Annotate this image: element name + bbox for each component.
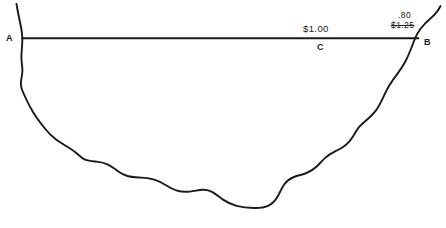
label-price-old-strikethrough: $1.25	[391, 21, 414, 30]
left-wall-curve	[17, 4, 441, 208]
label-point-a: A	[6, 34, 13, 43]
label-price-new: .80	[398, 11, 411, 20]
diagram-canvas: A B C $1.00 .80 $1.25	[0, 0, 446, 228]
label-point-b: B	[424, 38, 431, 47]
label-price-main: $1.00	[303, 24, 329, 34]
valley-cross-section-drawing	[0, 0, 446, 228]
label-point-c: C	[317, 43, 324, 52]
